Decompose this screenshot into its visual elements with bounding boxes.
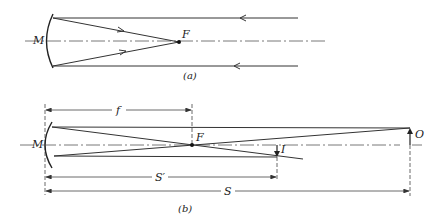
panel-a: M F (a) [25, 14, 325, 81]
focal-point [190, 143, 194, 147]
mirror-label: M [32, 34, 45, 47]
ray-through-focus-to-image [52, 127, 303, 159]
object-label: O [415, 128, 424, 141]
reflected-ray-bottom [53, 42, 179, 66]
ray-parallel-top [52, 127, 410, 128]
caption-b: (b) [178, 203, 192, 214]
image-distance-label: S′ [155, 171, 166, 184]
object-arrow-head-icon [407, 128, 413, 134]
ray-from-object-through-focus [54, 128, 410, 156]
panel-b: M F O I f S′ S (b) [20, 104, 424, 214]
caption-a: (a) [183, 70, 197, 81]
ray-parallel-bottom [54, 156, 277, 157]
image-label: I [280, 143, 286, 156]
focus-label: F [181, 28, 190, 41]
arrow-head-icon [117, 27, 124, 32]
focal-length-label: f [115, 104, 122, 117]
reflected-ray-top [53, 18, 179, 42]
mirror-label: M [31, 138, 44, 151]
focal-point [177, 40, 181, 44]
focus-label: F [195, 131, 204, 144]
concave-mirror-diagram: M F (a) M F [0, 0, 441, 221]
object-distance-label: S [224, 185, 232, 198]
